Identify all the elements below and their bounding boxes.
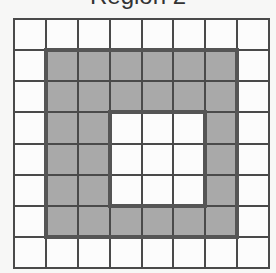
shaded-cell [110, 206, 142, 237]
grid-cell [46, 237, 78, 268]
grid-cell [14, 237, 46, 268]
grid-cell [78, 237, 110, 268]
grid-cell [205, 237, 237, 268]
grid-cell [237, 175, 269, 206]
region-border [108, 110, 112, 207]
shaded-cell [78, 112, 110, 143]
square-grid [14, 19, 269, 268]
region-border [44, 48, 239, 52]
grid-cell [173, 112, 205, 143]
shaded-cell [78, 81, 110, 112]
shaded-cell [205, 144, 237, 175]
shaded-cell [46, 144, 78, 175]
shaded-cell [78, 50, 110, 81]
grid-cell [46, 19, 78, 50]
grid-cell [237, 81, 269, 112]
region-border [44, 235, 239, 239]
grid-cell [14, 19, 46, 50]
grid-line [141, 18, 143, 269]
shaded-cell [173, 50, 205, 81]
shaded-cell [142, 50, 174, 81]
region-border [44, 48, 48, 239]
grid-cell [78, 19, 110, 50]
grid-cell [142, 175, 174, 206]
shaded-cell [46, 175, 78, 206]
grid-cell [237, 237, 269, 268]
shaded-cell [205, 112, 237, 143]
shaded-cell [46, 81, 78, 112]
shaded-cell [205, 175, 237, 206]
shaded-cell [46, 50, 78, 81]
grid-cell [205, 19, 237, 50]
grid-cell [237, 19, 269, 50]
grid-line [172, 18, 174, 269]
shaded-cell [110, 50, 142, 81]
grid-cell [14, 206, 46, 237]
grid-cell [173, 144, 205, 175]
grid-cell [142, 237, 174, 268]
grid-cell [173, 175, 205, 206]
grid-cell [237, 112, 269, 143]
grid-cell [142, 112, 174, 143]
diagram-title: Region 2 [0, 0, 276, 8]
grid-cell [142, 19, 174, 50]
shaded-cell [142, 206, 174, 237]
grid-line [13, 18, 15, 269]
grid-cell [110, 144, 142, 175]
grid-cell [14, 112, 46, 143]
grid-line [268, 18, 270, 269]
region-border [203, 110, 207, 207]
grid-cell [237, 144, 269, 175]
grid-cell [110, 19, 142, 50]
grid-cell [142, 144, 174, 175]
grid-cell [110, 175, 142, 206]
grid-cell [14, 81, 46, 112]
shaded-cell [142, 81, 174, 112]
shaded-cell [46, 206, 78, 237]
grid-cell [110, 112, 142, 143]
shaded-cell [78, 175, 110, 206]
grid-cell [14, 144, 46, 175]
region-border [235, 48, 239, 239]
grid-cell [14, 175, 46, 206]
shaded-cell [173, 81, 205, 112]
grid-cell [110, 237, 142, 268]
grid-cell [173, 237, 205, 268]
shaded-cell [205, 81, 237, 112]
shaded-cell [78, 144, 110, 175]
shaded-cell [205, 50, 237, 81]
region-border [108, 110, 208, 114]
grid-line [77, 18, 79, 269]
shaded-cell [205, 206, 237, 237]
region-border [108, 204, 208, 208]
grid-cell [173, 19, 205, 50]
shaded-cell [46, 112, 78, 143]
grid-cell [237, 50, 269, 81]
shaded-cell [173, 206, 205, 237]
shaded-cell [110, 81, 142, 112]
grid-cell [14, 50, 46, 81]
shaded-cell [78, 206, 110, 237]
grid-cell [237, 206, 269, 237]
